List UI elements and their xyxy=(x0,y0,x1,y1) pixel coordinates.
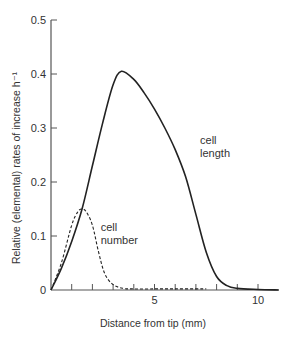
y-tick-label: 0.2 xyxy=(31,176,46,188)
series-annotation: length xyxy=(200,147,230,159)
ticks: 00.10.20.30.40.5510 xyxy=(31,14,264,306)
x-axis-title: Distance from tip (mm) xyxy=(100,317,206,329)
y-tick-label: 0 xyxy=(40,284,46,296)
y-tick-label: 0.3 xyxy=(31,122,46,134)
series-annotation: cell xyxy=(200,134,217,146)
y-axis-title: Relative (elemental) rates of increase h… xyxy=(10,71,22,264)
series xyxy=(51,71,279,290)
axes xyxy=(51,20,279,290)
cell-number-line xyxy=(51,209,206,290)
cell-length-line xyxy=(51,71,279,290)
x-tick-label: 10 xyxy=(252,294,264,306)
series-annotation: number xyxy=(101,234,139,246)
x-tick-label: 5 xyxy=(151,294,157,306)
series-annotation: cell xyxy=(101,221,118,233)
y-tick-label: 0.1 xyxy=(31,230,46,242)
annotations: celllengthcellnumber xyxy=(101,134,230,245)
line-chart: 00.10.20.30.40.5510 celllengthcellnumber… xyxy=(0,0,296,337)
y-tick-label: 0.5 xyxy=(31,14,46,26)
y-tick-label: 0.4 xyxy=(31,68,46,80)
